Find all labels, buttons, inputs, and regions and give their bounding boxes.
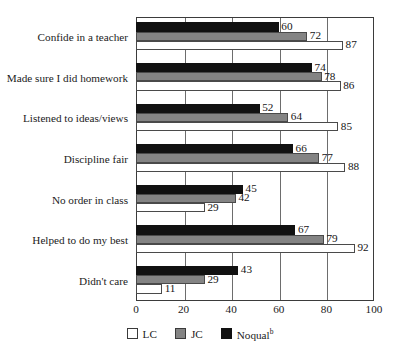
category-label-0: Confide in a teacher [38, 31, 128, 43]
legend-swatch-icon-noqual [221, 328, 232, 339]
bar-jc-5 [136, 235, 324, 244]
bar-value-lc-3: 88 [348, 161, 359, 172]
bar-value-lc-4: 29 [208, 202, 219, 213]
bar-value-jc-6: 29 [208, 274, 219, 285]
bar-lc-2 [136, 122, 338, 131]
bar-value-noqual-3: 66 [296, 143, 307, 154]
bar-noqual-3 [136, 144, 293, 153]
category-label-6: Didn't care [79, 275, 128, 287]
bar-value-noqual-5: 67 [298, 224, 309, 235]
bar-value-jc-3: 77 [322, 152, 333, 163]
x-tick-40: 40 [226, 303, 237, 315]
bar-value-noqual-2: 52 [262, 102, 273, 113]
bar-value-jc-0: 72 [310, 30, 321, 41]
bar-value-noqual-6: 43 [241, 264, 252, 275]
legend-item-noqual[interactable]: Noqualb [221, 327, 274, 341]
bar-noqual-6 [136, 266, 238, 275]
bars-layer: 6072877478865264856677884542296779924329… [136, 17, 374, 301]
category-axis-labels: Confide in a teacherMade sure I did home… [0, 17, 132, 301]
legend-swatch-icon-jc [175, 328, 186, 339]
bar-lc-4 [136, 203, 205, 212]
legend-swatch-icon-lc [127, 328, 138, 339]
x-tick-0: 0 [133, 303, 139, 315]
legend-item-jc[interactable]: JC [175, 328, 203, 340]
bar-jc-3 [136, 153, 319, 162]
bar-noqual-4 [136, 185, 243, 194]
bar-value-noqual-0: 60 [281, 21, 292, 32]
legend-label-lc: LC [143, 328, 157, 340]
x-tick-20: 20 [178, 303, 189, 315]
bar-lc-6 [136, 284, 162, 293]
bar-noqual-2 [136, 104, 260, 113]
bar-value-jc-2: 64 [291, 111, 302, 122]
bar-lc-1 [136, 81, 341, 90]
category-label-2: Listened to ideas/views [23, 112, 128, 124]
bar-noqual-0 [136, 22, 279, 31]
bar-value-lc-2: 85 [341, 121, 352, 132]
bar-value-lc-5: 92 [357, 242, 368, 253]
bar-value-jc-4: 42 [238, 192, 249, 203]
legend-label-noqual: Noqualb [237, 327, 274, 341]
x-tick-80: 80 [321, 303, 332, 315]
category-label-4: No order in class [52, 194, 128, 206]
legend-label-jc: JC [191, 328, 203, 340]
bar-lc-0 [136, 41, 343, 50]
bar-noqual-5 [136, 225, 295, 234]
bar-jc-0 [136, 32, 307, 41]
chart-title-clipped [0, 0, 400, 12]
legend-footnote-marker: b [270, 327, 274, 336]
category-label-3: Discipline fair [64, 153, 128, 165]
x-tick-60: 60 [273, 303, 284, 315]
legend-item-lc[interactable]: LC [127, 328, 157, 340]
x-axis-ticks: 020406080100 [136, 303, 374, 319]
bar-value-lc-0: 87 [346, 39, 357, 50]
bar-noqual-1 [136, 63, 312, 72]
bar-value-lc-1: 86 [343, 80, 354, 91]
bar-lc-3 [136, 163, 345, 172]
bar-value-lc-6: 11 [165, 283, 176, 294]
bar-jc-2 [136, 113, 288, 122]
bar-value-jc-5: 79 [327, 233, 338, 244]
bar-chart: Confide in a teacherMade sure I did home… [0, 0, 400, 349]
bar-value-jc-1: 78 [324, 71, 335, 82]
bar-jc-1 [136, 72, 322, 81]
bar-lc-5 [136, 244, 355, 253]
chart-legend: LCJCNoqualb [0, 327, 400, 341]
category-label-1: Made sure I did homework [7, 72, 128, 84]
x-tick-100: 100 [366, 303, 383, 315]
bar-jc-4 [136, 194, 236, 203]
category-label-5: Helped to do my best [32, 234, 128, 246]
